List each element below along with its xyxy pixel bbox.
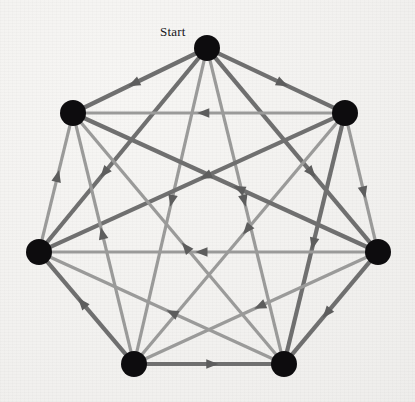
- node-upper-left: [60, 100, 86, 126]
- figure-canvas: Start: [0, 0, 415, 402]
- edge-arrowhead: [128, 77, 141, 87]
- start-label: Start: [160, 25, 186, 38]
- edge-arrowhead: [254, 299, 267, 308]
- edge-arrowhead: [206, 359, 218, 369]
- directed-graph: [0, 0, 415, 402]
- node-left: [26, 239, 52, 265]
- node-upper-right: [332, 100, 358, 126]
- node-bottom-left: [121, 351, 147, 377]
- start-node: [194, 35, 220, 61]
- graph-edge: [42, 125, 70, 241]
- node-right: [365, 239, 391, 265]
- edges-layer: [42, 53, 375, 364]
- edge-arrowhead: [233, 186, 246, 195]
- edge-arrowhead: [195, 247, 207, 257]
- node-bottom-right: [271, 351, 297, 377]
- edge-arrowhead: [275, 77, 288, 87]
- nodes-layer: [26, 35, 391, 377]
- edge-arrowhead: [197, 108, 209, 118]
